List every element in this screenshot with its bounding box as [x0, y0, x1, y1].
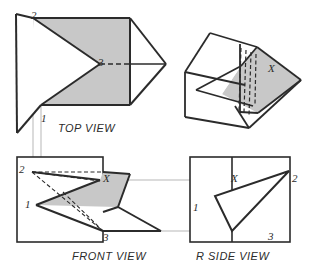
- pictorial-view-group: [185, 33, 301, 128]
- top-view-group: [16, 14, 166, 133]
- front-view-label: FRONT VIEW: [72, 250, 146, 262]
- side-view-point-1: 1: [193, 201, 199, 213]
- pictorial-point-x: X: [268, 62, 275, 74]
- front-view-group: [17, 157, 161, 242]
- side-view-point-3: 3: [268, 230, 274, 242]
- side-view-point-2: 2: [292, 172, 298, 184]
- top-view-right-flap: [130, 18, 166, 105]
- top-view-point-2: 2: [31, 9, 37, 21]
- top-view-label: TOP VIEW: [58, 122, 115, 134]
- top-view-left-sheet: [16, 14, 41, 133]
- top-view-shaded-face: [33, 18, 130, 105]
- r-side-view-group: [190, 157, 290, 242]
- top-view-point-1: 1: [41, 112, 47, 124]
- top-view-point-3: 3: [98, 56, 104, 68]
- front-view-point-3: 3: [103, 231, 109, 243]
- technical-drawing-canvas: TOP VIEW FRONT VIEW R SIDE VIEW 2 3 1 X …: [0, 0, 317, 277]
- r-side-view-label: R SIDE VIEW: [196, 250, 269, 262]
- front-view-point-1: 1: [25, 198, 31, 210]
- pictorial-back-bottom-edge: [185, 117, 249, 128]
- front-view-point-x: X: [103, 172, 110, 184]
- top-view-left-edge: [16, 14, 17, 133]
- front-view-point-2: 2: [19, 163, 25, 175]
- side-view-point-x: X: [231, 172, 238, 184]
